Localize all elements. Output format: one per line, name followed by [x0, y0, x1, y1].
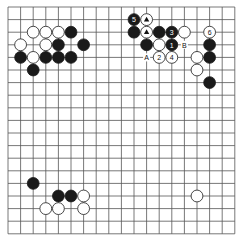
- white-stone: [40, 39, 52, 51]
- white-stone: [40, 203, 52, 215]
- stone-circle: [40, 51, 52, 63]
- stone-circle: [65, 51, 77, 63]
- stone-circle: [191, 64, 203, 76]
- black-stone: [141, 39, 153, 51]
- stone-circle: [52, 26, 64, 38]
- black-stone: [40, 51, 52, 63]
- white-stone: [153, 39, 165, 51]
- black-stone: [52, 39, 64, 51]
- point-label-text: A: [144, 54, 149, 61]
- stone-circle: [204, 39, 216, 51]
- black-stone: [52, 190, 64, 202]
- stone-circle: [204, 51, 216, 63]
- white-stone: [141, 14, 153, 26]
- black-stone: [27, 177, 39, 189]
- stone-circle: [178, 26, 190, 38]
- white-stone: 2: [153, 51, 165, 63]
- stone-circle: [52, 190, 64, 202]
- stone-circle: [191, 51, 203, 63]
- stone-circle: [78, 39, 90, 51]
- stone-circle: [191, 190, 203, 202]
- white-stone: [191, 190, 203, 202]
- stone-circle: [27, 26, 39, 38]
- point-label-a: A: [143, 53, 150, 61]
- white-stone: [52, 203, 64, 215]
- black-stone: [204, 51, 216, 63]
- black-stone: [65, 51, 77, 63]
- point-label-b: B: [181, 41, 188, 49]
- stone-circle: [40, 203, 52, 215]
- black-stone: 1: [166, 39, 178, 51]
- stone-circle: [52, 203, 64, 215]
- stone-circle: [65, 190, 77, 202]
- point-label-text: B: [182, 42, 187, 49]
- stone-circle: [65, 26, 77, 38]
- white-stone: 6: [204, 26, 216, 38]
- white-stone: [78, 203, 90, 215]
- stone-circle: [27, 177, 39, 189]
- stone-circle: [15, 51, 27, 63]
- black-stone: [65, 190, 77, 202]
- white-stone: [178, 26, 190, 38]
- stone-circle: [153, 26, 165, 38]
- stone-circle: [204, 77, 216, 89]
- go-board: 536124 AB: [0, 0, 240, 247]
- stone-circle: [27, 51, 39, 63]
- black-stone: [153, 26, 165, 38]
- black-stone: [204, 39, 216, 51]
- stone-circle: [52, 51, 64, 63]
- stone-circle: [27, 64, 39, 76]
- stone-circle: [141, 39, 153, 51]
- white-stone: [78, 190, 90, 202]
- move-number-label: 6: [208, 29, 212, 36]
- white-stone: [27, 26, 39, 38]
- black-stone: [52, 51, 64, 63]
- stone-circle: [15, 39, 27, 51]
- move-number-label: 5: [132, 16, 136, 23]
- stone-circle: [52, 39, 64, 51]
- white-stone: [191, 51, 203, 63]
- white-stone: [40, 26, 52, 38]
- move-number-label: 3: [170, 29, 174, 36]
- black-stone: [128, 26, 140, 38]
- stone-circle: [153, 39, 165, 51]
- black-stone: [65, 26, 77, 38]
- white-stone: [52, 26, 64, 38]
- stone-circle: [128, 26, 140, 38]
- stone-circle: [40, 26, 52, 38]
- stone-circle: [78, 190, 90, 202]
- move-number-label: 1: [170, 42, 174, 49]
- black-stone: [15, 51, 27, 63]
- stone-circle: [78, 203, 90, 215]
- stone-circle: [40, 39, 52, 51]
- white-stone: [15, 39, 27, 51]
- black-stone: 3: [166, 26, 178, 38]
- white-stone: [141, 26, 153, 38]
- black-stone: [204, 77, 216, 89]
- black-stone: [27, 64, 39, 76]
- black-stone: 5: [128, 14, 140, 26]
- white-stone: 4: [166, 51, 178, 63]
- move-number-label: 2: [157, 54, 161, 61]
- move-number-label: 4: [170, 54, 174, 61]
- white-stone: [27, 51, 39, 63]
- black-stone: [78, 39, 90, 51]
- white-stone: [191, 64, 203, 76]
